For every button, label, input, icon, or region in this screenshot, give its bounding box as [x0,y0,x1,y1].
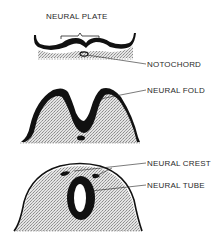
diagram-drawing [0,0,222,238]
notochord-label: NOTOCHORD [147,60,201,69]
neural-tube-label: NEURAL TUBE [147,181,205,190]
neural-fold-label: NEURAL FOLD [147,86,205,95]
neural-plate-label: NEURAL PLATE [46,12,108,21]
neural-plate-shape [34,33,136,50]
neural-canal [74,184,86,212]
neural-tube-stage [14,163,146,231]
mesoderm-stipple-2 [22,90,140,143]
neural-crest-label: NEURAL CREST [147,159,211,168]
neural-plate-brace [61,33,99,39]
notochord-shape-2 [77,136,85,141]
neural-fold-stage [20,88,146,143]
neurulation-diagram: NEURAL PLATE NOTOCHORD NEURAL FOLD NEURA… [0,0,222,238]
neural-plate-stage [34,33,146,64]
